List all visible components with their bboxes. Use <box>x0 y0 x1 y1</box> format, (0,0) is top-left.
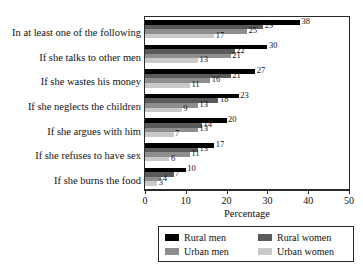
bar-group: 2318139 <box>145 94 349 112</box>
x-tick <box>227 190 228 194</box>
bar-value-label: 21 <box>232 71 241 80</box>
bar <box>145 34 214 39</box>
legend-entry: Rural men <box>165 230 254 244</box>
bar-value-label: 11 <box>191 149 199 158</box>
legend-label: Rural women <box>277 232 331 243</box>
bar-group: 30222113 <box>145 45 349 63</box>
bar-chart: In at least one of the followingIf she t… <box>0 0 363 270</box>
x-tick-label: 20 <box>214 195 240 206</box>
bar-value-label: 25 <box>249 26 258 35</box>
bar-value-label: 4 <box>163 174 167 183</box>
bar-group: 1713116 <box>145 143 349 161</box>
bar-group: 38292517 <box>145 20 349 38</box>
legend-swatch <box>165 234 179 241</box>
bar-value-label: 7 <box>175 129 179 138</box>
bar-value-label: 17 <box>216 31 225 40</box>
x-tick-label: 10 <box>173 195 199 206</box>
bar <box>145 58 198 63</box>
bar-value-label: 16 <box>212 75 221 84</box>
bar-value-label: 11 <box>191 80 199 89</box>
bar-value-label: 17 <box>216 140 225 149</box>
x-tick-label: 0 <box>132 195 158 206</box>
legend-label: Rural men <box>184 232 226 243</box>
category-label: If she argues with him <box>0 126 141 138</box>
bar-value-label: 13 <box>200 100 209 109</box>
category-label: If she talks to other men <box>0 52 141 64</box>
bar-value-label: 10 <box>187 164 196 173</box>
x-tick-label: 40 <box>295 195 321 206</box>
legend-label: Urban women <box>277 246 334 257</box>
bar-value-label: 29 <box>265 21 274 30</box>
bar-value-label: 13 <box>200 55 209 64</box>
bar <box>145 108 182 113</box>
category-label: If she neglects the children <box>0 101 141 113</box>
bar-value-label: 9 <box>183 104 187 113</box>
bar-value-label: 38 <box>302 17 311 26</box>
legend-entry: Urban men <box>165 244 254 258</box>
legend-entry: Urban women <box>258 244 347 258</box>
category-label: If she refuses to have sex <box>0 150 141 162</box>
bar-value-label: 23 <box>240 91 249 100</box>
bar-value-label: 7 <box>175 169 179 178</box>
bar <box>145 181 157 186</box>
category-axis: In at least one of the followingIf she t… <box>0 21 144 189</box>
x-tick-label: 50 <box>336 195 362 206</box>
category-label: If she burns the food <box>0 175 141 187</box>
bar-value-label: 13 <box>200 124 209 133</box>
plot-frame: 3829251730222113272116112318139201413717… <box>144 16 350 190</box>
legend-grid: Rural menRural womenUrban menUrban women <box>165 230 347 258</box>
legend-label: Urban men <box>184 246 229 257</box>
bar <box>145 132 174 137</box>
x-tick <box>145 190 146 194</box>
bar-value-label: 13 <box>200 144 209 153</box>
plot-area: 3829251730222113272116112318139201413717… <box>145 17 349 189</box>
x-tick <box>349 190 350 194</box>
bar-group: 2014137 <box>145 118 349 136</box>
bar-value-label: 27 <box>257 66 266 75</box>
bar-group: 10743 <box>145 168 349 186</box>
x-tick <box>267 190 268 194</box>
bar-value-label: 30 <box>269 41 278 50</box>
category-label: If she wastes his money <box>0 76 141 88</box>
x-tick-label: 30 <box>254 195 280 206</box>
bar-value-label: 6 <box>171 154 175 163</box>
legend-swatch <box>165 248 179 255</box>
bar-value-label: 20 <box>228 115 237 124</box>
bar <box>145 83 190 88</box>
x-axis-title: Percentage <box>144 208 350 219</box>
bar-value-label: 21 <box>232 51 241 60</box>
x-tick <box>308 190 309 194</box>
x-tick <box>186 190 187 194</box>
x-axis-line <box>144 190 350 191</box>
bar-value-label: 3 <box>159 178 163 187</box>
chart-legend: Rural menRural womenUrban menUrban women <box>158 226 354 262</box>
bar-value-label: 18 <box>220 95 229 104</box>
legend-swatch <box>258 248 272 255</box>
bar-group: 27211611 <box>145 69 349 87</box>
legend-entry: Rural women <box>258 230 347 244</box>
legend-swatch <box>258 234 272 241</box>
category-label: In at least one of the following <box>0 27 141 39</box>
x-axis: Percentage 01020304050 <box>144 190 350 220</box>
bar <box>145 157 169 162</box>
